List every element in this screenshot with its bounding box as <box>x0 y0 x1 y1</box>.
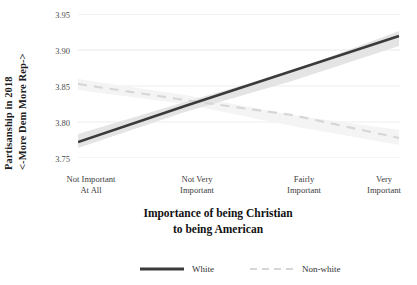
x-tick-line-1: Very <box>334 174 417 185</box>
x-axis-title-line-2: to being American <box>58 222 378 238</box>
legend-item-white: White <box>140 262 214 276</box>
chart-figure: Partisanship in 2018 <-More Dem More Rep… <box>0 0 417 285</box>
plot-area <box>78 14 400 158</box>
x-tick-label-very-important: Very Important <box>334 174 417 196</box>
chart-legend: White Non-white <box>140 262 370 278</box>
y-tick-label: 3.80 <box>36 118 70 128</box>
y-tick-label: 3.95 <box>36 10 70 20</box>
legend-key-solid-line-icon <box>140 263 184 275</box>
legend-label-white: White <box>192 264 214 274</box>
x-tick-line-2: Important <box>334 185 417 196</box>
y-tick-label: 3.85 <box>36 82 70 92</box>
y-axis-tick-labels: 3.95 3.90 3.85 3.80 3.75 <box>36 0 70 175</box>
x-axis-title: Importance of being Christian to being A… <box>58 206 378 237</box>
y-axis-title-line-1: Partisanship in 2018 <box>3 2 14 170</box>
x-tick-line-2: Important <box>147 185 247 196</box>
y-tick-label: 3.75 <box>36 154 70 164</box>
x-tick-line-1: Not Very <box>147 174 247 185</box>
y-axis-title-line-2: <-More Dem More Rep-> <box>17 2 28 170</box>
legend-item-nonwhite: Non-white <box>250 262 341 276</box>
chart-svg <box>78 14 400 158</box>
x-axis-tick-labels: Not Important At All Not Very Important … <box>40 172 417 204</box>
x-axis-title-line-1: Importance of being Christian <box>58 206 378 222</box>
x-tick-line-2: At All <box>41 185 141 196</box>
x-tick-label-not-very-important: Not Very Important <box>147 174 247 196</box>
x-tick-label-not-important-at-all: Not Important At All <box>41 174 141 196</box>
x-tick-line-1: Not Important <box>41 174 141 185</box>
legend-key-dashed-line-icon <box>250 263 294 275</box>
y-tick-label: 3.90 <box>36 46 70 56</box>
legend-label-nonwhite: Non-white <box>302 264 341 274</box>
